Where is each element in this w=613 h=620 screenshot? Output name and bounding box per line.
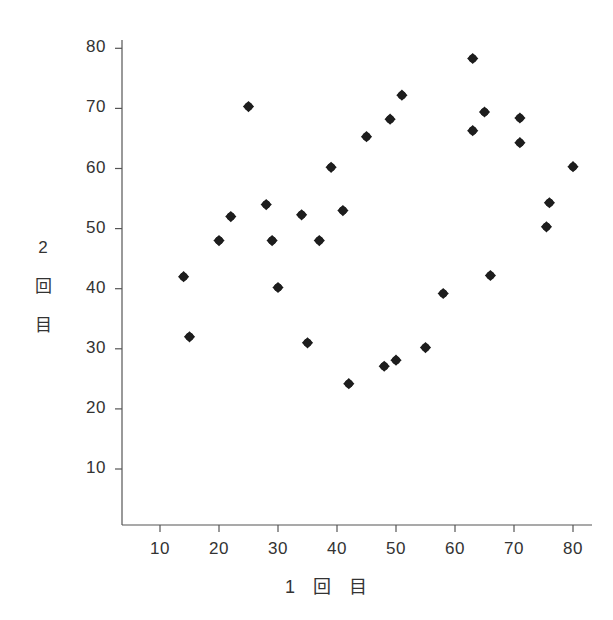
x-axis-title: 1回目 [206, 572, 446, 598]
x-tick-label: 80 [553, 539, 593, 559]
marker-core [545, 199, 553, 207]
data-point [479, 106, 490, 117]
axis-ticks [115, 48, 573, 532]
marker-core [327, 163, 335, 171]
x-axis-title-char: 目 [349, 572, 367, 598]
marker-core [398, 91, 406, 99]
x-tick-label: 60 [435, 539, 475, 559]
y-tick-label: 30 [64, 338, 106, 358]
x-tick-label: 40 [317, 539, 357, 559]
y-axis-title-char: 2 [26, 228, 60, 267]
marker-core [298, 211, 306, 219]
x-tick-label: 20 [199, 539, 239, 559]
marker-core [185, 333, 193, 341]
marker-core [569, 163, 577, 171]
data-point [361, 131, 372, 142]
data-point [213, 235, 224, 246]
x-tick-label: 50 [376, 539, 416, 559]
data-point [326, 162, 337, 173]
x-axis-title-char: 1 [285, 577, 295, 598]
data-point [337, 205, 348, 216]
marker-core [542, 223, 550, 231]
marker-core [274, 283, 282, 291]
marker-core [262, 201, 270, 209]
data-point [343, 378, 354, 389]
data-point [485, 270, 496, 281]
marker-core [315, 237, 323, 245]
marker-core [303, 339, 311, 347]
marker-core [339, 207, 347, 215]
x-axis-title-char: 回 [313, 572, 331, 598]
marker-core [180, 273, 188, 281]
data-point [302, 337, 313, 348]
y-tick-label: 60 [64, 158, 106, 178]
data-point [544, 197, 555, 208]
data-point [379, 361, 390, 372]
data-point [420, 342, 431, 353]
marker-core [227, 213, 235, 221]
data-point [438, 288, 449, 299]
marker-core [421, 344, 429, 352]
y-tick-label: 20 [64, 398, 106, 418]
y-axis-title-char: 回 [26, 267, 60, 306]
y-tick-label: 10 [64, 458, 106, 478]
data-point [467, 125, 478, 136]
x-tick-label: 70 [494, 539, 534, 559]
y-tick-label: 40 [64, 278, 106, 298]
data-point [567, 161, 578, 172]
data-point [272, 282, 283, 293]
marker-core [469, 127, 477, 135]
x-tick-label: 30 [258, 539, 298, 559]
data-point [296, 209, 307, 220]
marker-core [345, 380, 353, 388]
data-point [261, 199, 272, 210]
data-point [267, 235, 278, 246]
marker-core [380, 362, 388, 370]
x-tick-label: 10 [140, 539, 180, 559]
data-point [396, 90, 407, 101]
data-point [178, 271, 189, 282]
data-point [225, 211, 236, 222]
data-point [467, 53, 478, 64]
scatter-plot: 1020304050607080 1020304050607080 2回目 1回… [0, 0, 613, 620]
data-point [314, 235, 325, 246]
data-point [243, 101, 254, 112]
marker-core [480, 108, 488, 116]
marker-core [439, 289, 447, 297]
marker-core [215, 237, 223, 245]
data-point [514, 112, 525, 123]
y-axis-title: 2回目 [26, 228, 60, 345]
marker-core [244, 103, 252, 111]
marker-core [268, 237, 276, 245]
marker-core [362, 133, 370, 141]
marker-core [392, 356, 400, 364]
data-point [541, 221, 552, 232]
marker-core [516, 114, 524, 122]
data-point [514, 137, 525, 148]
data-point [385, 114, 396, 125]
marker-core [469, 54, 477, 62]
plot-canvas [0, 0, 613, 620]
y-tick-label: 80 [64, 37, 106, 57]
data-point [390, 355, 401, 366]
marker-core [386, 115, 394, 123]
y-tick-label: 50 [64, 218, 106, 238]
marker-core [516, 139, 524, 147]
marker-core [486, 271, 494, 279]
y-tick-label: 70 [64, 97, 106, 117]
data-points [178, 53, 579, 389]
data-point [184, 331, 195, 342]
axes [122, 40, 592, 525]
y-axis-title-char: 目 [26, 306, 60, 345]
